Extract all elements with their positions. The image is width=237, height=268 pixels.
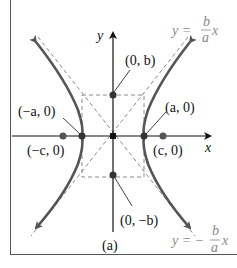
hyperbola-left-branch [36, 42, 83, 228]
svg-text:b: b [203, 14, 210, 29]
svg-text:y =: y = [170, 23, 191, 38]
focus-left-point [60, 133, 67, 140]
focus-right-label: (c, 0) [153, 143, 183, 159]
co-vertex-bottom-point [110, 172, 117, 179]
co-vertex-top-point [110, 92, 117, 99]
vertex-left-label: (−a, 0) [18, 104, 56, 120]
caption: (a) [102, 238, 118, 254]
hyperbola-diagram: y x (0, b) (−a, 0) (a, 0) (−c, 0) (c, 0)… [0, 0, 237, 268]
asymptote-positive-label: y = b a x [170, 14, 219, 45]
leader-vertex-right [146, 112, 166, 134]
origin-point [110, 133, 116, 139]
co-vertex-top-label: (0, b) [125, 53, 156, 69]
leader-vertex-left [63, 118, 80, 134]
y-axis-label: y [95, 28, 104, 43]
focus-right-point [160, 133, 167, 140]
svg-text:y = −: y = − [170, 233, 204, 248]
x-axis-label: x [204, 140, 212, 155]
vertex-right-label: (a, 0) [165, 100, 195, 116]
svg-text:x: x [221, 233, 229, 248]
co-vertex-bottom-label: (0, −b) [120, 213, 159, 229]
svg-text:b: b [212, 223, 219, 238]
focus-left-label: (−c, 0) [27, 143, 65, 159]
svg-text:a: a [202, 30, 209, 45]
asymptote-negative-label: y = − b a x [170, 223, 229, 255]
hyperbola-right-branch [144, 42, 191, 228]
leader-top [114, 70, 130, 92]
svg-text:x: x [211, 23, 219, 38]
svg-text:a: a [211, 240, 218, 255]
leader-bottom [115, 178, 132, 206]
